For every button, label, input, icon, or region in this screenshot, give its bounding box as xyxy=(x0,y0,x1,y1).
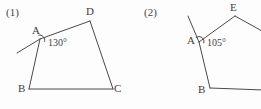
figure-2-edge-BC xyxy=(210,88,261,90)
figure-2-drawing xyxy=(130,0,261,109)
figure-1-vertex-label-B: B xyxy=(18,83,25,94)
figure-2-vertex-label-E: E xyxy=(230,2,237,13)
figure-1: (1) A B C D 130° xyxy=(0,0,131,109)
figure-2-edge-AB xyxy=(199,42,210,88)
figure-2-vertex-label-A: A xyxy=(187,35,195,46)
figure-1-vertex-label-A: A xyxy=(32,25,40,36)
figure-1-vertex-label-D: D xyxy=(86,6,94,17)
figure-1-edge-AB xyxy=(29,39,40,89)
figure-2-edge-DE xyxy=(235,16,261,36)
figure-2-vertex-label-B: B xyxy=(198,84,205,95)
figure-2-angle-label: 105° xyxy=(207,38,226,48)
figure-1-edge-CD xyxy=(90,21,113,89)
geometry-figures-page: (1) A B C D 130° (2) xyxy=(0,0,261,109)
figure-1-extension-ray xyxy=(17,39,40,53)
figure-1-angle-label: 130° xyxy=(48,38,67,48)
figure-1-vertex-label-C: C xyxy=(114,83,121,94)
figure-2: (2) A B C D E 105° xyxy=(130,0,261,109)
